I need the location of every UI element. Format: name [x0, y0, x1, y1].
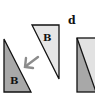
- square-right: [77, 38, 95, 92]
- arrow-icon: [25, 57, 38, 68]
- triangle-left-label: B: [10, 75, 18, 86]
- panel-label: d: [68, 14, 76, 27]
- triangle-upper-label: B: [43, 32, 51, 43]
- triangle-upper: B: [32, 25, 59, 79]
- diagram-figure: B B d: [0, 0, 95, 98]
